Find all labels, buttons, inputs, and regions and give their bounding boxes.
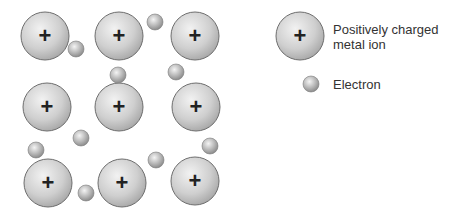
plus-icon: + (39, 23, 52, 48)
legend-ion-label: Positively charged metal ion (333, 22, 439, 52)
electron-icon (28, 142, 44, 158)
metal-ion: + (24, 159, 72, 207)
legend-ion-label-line2: metal ion (333, 37, 439, 52)
plus-icon: + (116, 170, 129, 195)
legend-electron-icon (303, 76, 319, 92)
plus-icon: + (190, 94, 203, 119)
electron-icon (68, 41, 84, 57)
metal-ion: + (23, 83, 71, 131)
metal-ion: + (171, 12, 219, 60)
electron-icon (110, 67, 126, 83)
electron-icon (78, 185, 94, 201)
plus-icon: + (41, 94, 54, 119)
legend: + (276, 12, 324, 92)
plus-icon: + (113, 23, 126, 48)
electron-icon (168, 64, 184, 80)
electron-icon (147, 14, 163, 30)
plus-icon: + (113, 94, 126, 119)
metal-ion: + (21, 12, 69, 60)
electron-icon (202, 138, 218, 154)
legend-ion-plus: + (294, 23, 307, 48)
plus-icon: + (189, 23, 202, 48)
metal-ion: + (98, 159, 146, 207)
electron-icon (73, 130, 89, 146)
legend-electron-label: Electron (333, 77, 381, 92)
plus-icon: + (189, 168, 202, 193)
metal-ion: + (171, 157, 219, 205)
metal-ion: + (95, 83, 143, 131)
plus-icon: + (42, 170, 55, 195)
electron-icon (148, 152, 164, 168)
ions-layer: +++++++++ (21, 12, 220, 207)
legend-ion-label-line1: Positively charged (333, 22, 439, 37)
metal-ion: + (172, 83, 220, 131)
metal-ion: + (95, 12, 143, 60)
